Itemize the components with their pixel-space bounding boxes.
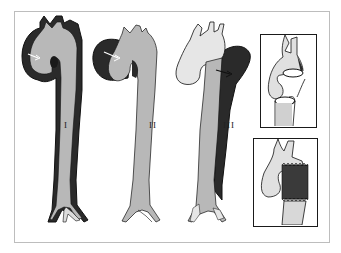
panel-label-i: I [64,120,68,130]
transected-aorta-drawing [261,35,315,126]
inset-transected-aorta [260,34,317,128]
panel-i-aorta [22,16,88,222]
panel-label-iii: III [223,120,235,130]
inset-graft-repair [253,138,318,227]
graft-repair-drawing [254,139,316,225]
panel-label-ii: II [149,120,157,130]
panel-iii-aorta [176,22,250,222]
